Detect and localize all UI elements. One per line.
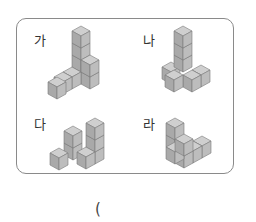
- figure-ra: [166, 118, 211, 168]
- figure-na: [162, 26, 210, 92]
- cube-figures: [0, 0, 256, 222]
- figure-ga: [48, 26, 99, 99]
- answer-blank-open-paren: (: [95, 200, 101, 218]
- figure-da: [50, 118, 104, 170]
